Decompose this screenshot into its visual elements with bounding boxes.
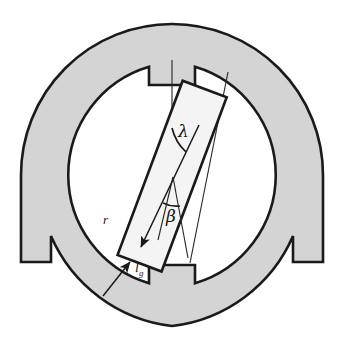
- cross-section-figure: λ β r lg: [0, 0, 345, 349]
- beta-label: β: [165, 206, 176, 226]
- lambda-label: λ: [177, 121, 189, 141]
- diagram-root: λ β r lg: [0, 0, 345, 349]
- gap-length-subscript: g: [139, 268, 144, 278]
